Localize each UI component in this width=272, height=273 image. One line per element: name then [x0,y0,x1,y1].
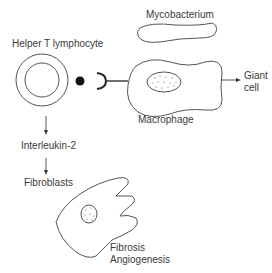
receptor-dot-icon [76,77,85,86]
granuloma-diagram: Helper T lymphocyte Mycobacterium Macrop… [0,0,272,273]
helper-t-lymphocyte-label: Helper T lymphocyte [12,38,103,50]
arrow-to-interleukin-icon [44,116,48,135]
arrow-to-fibroblasts-icon [44,158,48,175]
macrophage-icon [127,60,222,117]
macrophage-label: Macrophage [138,114,194,126]
angiogenesis-label: Angiogenesis [110,254,170,266]
fibroblasts-label: Fibroblasts [24,177,73,189]
mycobacterium-icon [137,23,216,42]
arrow-to-giant-cell-icon [222,78,241,82]
giant-cell-label-line1: Giant [244,70,268,82]
fibrosis-label: Fibrosis [110,242,145,254]
macrophage-receptor-icon [97,73,128,89]
mycobacterium-label: Mycobacterium [146,9,214,21]
interleukin-2-label: Interleukin-2 [21,140,76,152]
helper-t-cell-icon [16,54,68,106]
giant-cell-label-line2: cell [244,82,259,94]
